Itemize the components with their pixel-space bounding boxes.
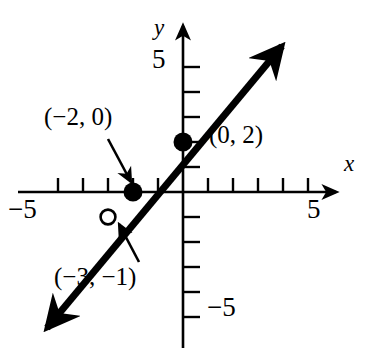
point-filled-y-intercept bbox=[174, 133, 193, 152]
x-tick-label-5: 5 bbox=[307, 196, 321, 223]
y-tick-label-5: 5 bbox=[152, 46, 166, 73]
y-axis-label: y bbox=[154, 16, 164, 39]
point-open-hole bbox=[101, 210, 116, 225]
coordinate-plane-graphic bbox=[0, 0, 375, 360]
point-filled-x-intercept bbox=[124, 183, 143, 202]
annotation-arrow-x-intercept bbox=[108, 139, 131, 182]
graph-figure: y x 5 −5 5 −5 (−2, 0) (0, 2) (−3, −1) bbox=[0, 0, 375, 360]
x-axis-label: x bbox=[344, 152, 354, 175]
point-label-open-point: (−3, −1) bbox=[54, 264, 136, 289]
point-label-x-intercept: (−2, 0) bbox=[44, 104, 112, 129]
x-tick-label-minus-5: −5 bbox=[8, 196, 37, 223]
point-label-y-intercept: (0, 2) bbox=[209, 122, 263, 147]
y-tick-label-minus-5: −5 bbox=[207, 294, 236, 321]
